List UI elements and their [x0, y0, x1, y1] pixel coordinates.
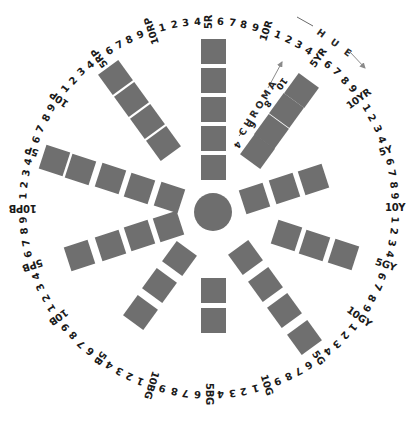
color-swatch-5r-4	[201, 68, 226, 93]
hue-label: 1	[389, 216, 399, 224]
color-swatch-5r-1	[201, 155, 226, 180]
hue-label: 9	[389, 193, 399, 201]
hue-label: 2	[19, 181, 30, 189]
hue-arrow-lead-line	[297, 17, 313, 26]
hue-label: 6	[194, 388, 202, 398]
hue-label: 4	[194, 17, 202, 27]
hue-label: 7	[182, 387, 190, 398]
color-swatch-5bg-1	[201, 278, 226, 303]
hue-label: 3	[228, 387, 236, 398]
hue-label: 5R	[204, 15, 214, 29]
hue-label: 6	[217, 17, 225, 27]
hue-label: 3	[386, 238, 397, 247]
hue-label: 10Y	[385, 203, 405, 213]
color-swatch-5r-3	[201, 97, 226, 122]
hue-label: 9	[18, 216, 28, 224]
hue-label: 5BG	[204, 383, 214, 405]
hue-label: 3	[182, 18, 190, 29]
hue-label: 2	[170, 20, 179, 31]
hue-label: 8	[388, 181, 399, 189]
hue-label: 4	[217, 388, 225, 398]
color-swatch-5bg-2	[201, 308, 226, 333]
hue-label: 8	[170, 385, 179, 396]
munsell-hue-chroma-diagram: 5R678910R12345YR678910YR12345Y678910Y123…	[0, 0, 415, 427]
hue-label: 1	[18, 193, 28, 201]
hue-label: 10PB	[9, 203, 37, 213]
color-swatch-5r-5	[201, 39, 226, 64]
hue-label: 7	[228, 18, 236, 29]
hue-label: 2	[388, 227, 399, 235]
color-swatch-5r-2	[201, 126, 226, 151]
neutral-center-disc	[194, 193, 232, 231]
